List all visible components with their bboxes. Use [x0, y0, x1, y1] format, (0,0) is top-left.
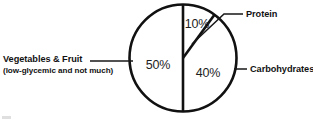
slice-value-protein: 10%	[185, 17, 210, 31]
slice-value-vegetables-fruit: 50%	[146, 58, 171, 72]
callout-label-carbohydrates: Carbohydrates	[250, 64, 313, 74]
callout-sublabel-vegetables-fruit: (low-glycemic and not much)	[3, 66, 114, 75]
pie-chart-svg: 50% 10% 40% Protein Carbohydrates Vegeta…	[0, 0, 313, 123]
callout-label-protein: Protein	[246, 9, 278, 19]
scan-artifact-mark	[2, 116, 11, 119]
callout-label-vegetables-fruit: Vegetables & Fruit	[3, 54, 82, 64]
slice-value-carbohydrates: 40%	[196, 66, 221, 80]
pie-chart-figure: 50% 10% 40% Protein Carbohydrates Vegeta…	[0, 0, 313, 123]
